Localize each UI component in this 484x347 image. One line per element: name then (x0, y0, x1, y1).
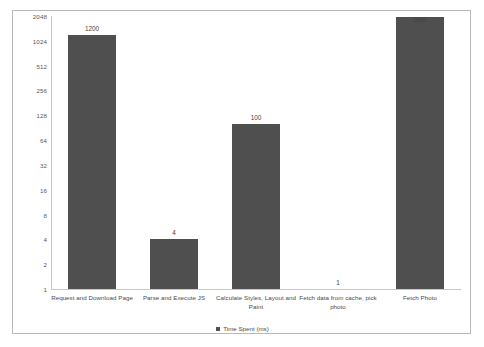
y-axis-tick-128: 128 (36, 112, 47, 119)
bar[interactable] (68, 35, 116, 289)
y-axis-tick-4: 4 (43, 236, 47, 243)
chart-legend: Time Spent (ms) (13, 325, 472, 332)
y-axis-tick-16: 16 (40, 186, 47, 193)
bar-column: 100 (215, 16, 297, 289)
y-axis-tick-32: 32 (40, 161, 47, 168)
y-axis-tick-2: 2 (43, 261, 47, 268)
bar-column: 2000 (379, 16, 461, 289)
bar-column: 4 (133, 16, 215, 289)
bar-value-label: 1200 (85, 25, 99, 32)
y-axis-tick-1024: 1024 (33, 37, 47, 44)
legend-swatch-icon (216, 327, 220, 331)
chart-container: 124816326412825651210242048 120041001200… (12, 10, 471, 334)
bar[interactable] (396, 17, 444, 289)
legend-label: Time Spent (ms) (223, 325, 269, 332)
bar-column: 1 (297, 16, 379, 289)
y-axis-tick-2048: 2048 (33, 13, 47, 20)
bar-column: 1200 (51, 16, 133, 289)
x-axis-category-labels: Request and Download PageParse and Execu… (51, 294, 461, 324)
y-axis-tick-64: 64 (40, 137, 47, 144)
bar[interactable] (150, 239, 198, 289)
x-axis-line (51, 289, 461, 290)
bar-value-label: 4 (172, 229, 176, 236)
x-axis-label: Parse and Execute JS (133, 294, 215, 303)
plot-area: 1200410012000 (51, 16, 461, 289)
bar-value-label: 2000 (413, 16, 427, 23)
bar[interactable] (232, 124, 280, 289)
bar-value-label: 100 (251, 114, 262, 121)
bar-value-label: 1 (336, 279, 340, 286)
x-axis-label: Calculate Styles, Layout and Paint (215, 294, 297, 311)
y-axis-tick-8: 8 (43, 211, 47, 218)
x-axis-label: Fetch Photo (379, 294, 461, 303)
y-axis-tick-256: 256 (36, 87, 47, 94)
y-axis-tick-512: 512 (36, 62, 47, 69)
y-axis-tick-1: 1 (43, 286, 47, 293)
y-axis-tick-labels: 124816326412825651210242048 (13, 11, 47, 347)
x-axis-label: Fetch data from cache, pick photo (297, 294, 379, 311)
x-axis-label: Request and Download Page (51, 294, 133, 303)
